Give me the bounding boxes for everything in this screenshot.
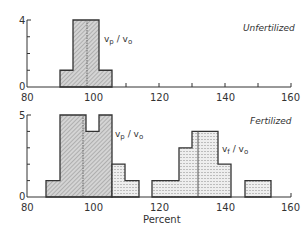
- y-max-label: 4: [19, 15, 25, 26]
- x-tick-160: 160: [281, 202, 300, 213]
- svg-text:vf / vo: vf / vo: [222, 144, 248, 156]
- bars-vf-vo-fertilized: [112, 131, 271, 197]
- bars-vp-vo-fertilized: [46, 115, 112, 197]
- histogram-figure: 4 0 80 100 120 140 160 Unfertilized vp /…: [0, 0, 307, 231]
- x-tick-100: 100: [84, 92, 103, 103]
- x-tick-140: 140: [216, 92, 235, 103]
- series-label-vp-vo: vp / vo: [104, 34, 132, 46]
- series-label-vf-vo: vf / vo: [222, 144, 248, 156]
- panel-fertilized: 5 0 80 100 120 140 160 Percent Fertilize…: [19, 110, 300, 225]
- x-tick-120: 120: [150, 92, 169, 103]
- y-min-label: 0: [19, 191, 25, 202]
- y-min-label: 0: [19, 81, 25, 92]
- x-tick-160: 160: [281, 92, 300, 103]
- svg-text:vp / vo: vp / vo: [115, 129, 143, 141]
- panel-title-unfertilized: Unfertilized: [243, 23, 295, 33]
- x-tick-100: 100: [84, 202, 103, 213]
- x-tick-80: 80: [21, 92, 34, 103]
- svg-text:vp / vo: vp / vo: [104, 34, 132, 46]
- y-max-label: 5: [19, 110, 25, 121]
- x-axis-label: Percent: [143, 214, 181, 225]
- series-label-vp-vo: vp / vo: [115, 129, 143, 141]
- panel-unfertilized: 4 0 80 100 120 140 160 Unfertilized vp /…: [19, 15, 300, 103]
- x-tick-140: 140: [216, 202, 235, 213]
- panel-title-fertilized: Fertilized: [250, 116, 292, 126]
- bars-vp-vo-unfertilized: [60, 20, 112, 87]
- x-tick-120: 120: [150, 202, 169, 213]
- x-tick-80: 80: [21, 202, 34, 213]
